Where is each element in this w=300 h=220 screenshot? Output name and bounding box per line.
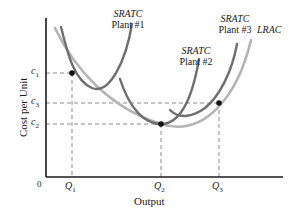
- x-tick-q1-sub: 1: [72, 186, 76, 194]
- origin-label: 0: [37, 180, 42, 189]
- axes: [46, 18, 283, 177]
- sratc-plant-1-label-line2: Plant #1: [100, 20, 156, 31]
- sratc-plant-3-label-line2: Plant #3: [207, 25, 263, 36]
- sratc-plant-2-curve: [120, 59, 199, 124]
- y-tick-c1: c1: [31, 66, 39, 79]
- x-tick-q3-sub: 3: [219, 186, 223, 194]
- marker-q3-c3: [216, 100, 222, 106]
- lrac-sratc-diagram: SRATC Plant #1 SRATC Plant #2 SRATC Plan…: [0, 0, 300, 220]
- sratc-plant-3-label: SRATC Plant #3: [207, 14, 263, 35]
- marker-q1-c1: [69, 70, 75, 76]
- lrac-label: LRAC: [257, 25, 281, 36]
- y-axis-title: Cost per Unit: [18, 78, 30, 137]
- x-tick-q2: Q2: [154, 181, 165, 194]
- marker-q2-c2: [158, 121, 164, 127]
- x-tick-q1: Q1: [65, 181, 76, 194]
- x-tick-q2-sub: 2: [161, 186, 165, 194]
- sratc-plant-1-label: SRATC Plant #1: [100, 9, 156, 30]
- sratc-plant-3-label-line1: SRATC: [207, 14, 263, 25]
- y-tick-c1-sub: 1: [35, 71, 39, 79]
- y-tick-c2: c2: [31, 117, 39, 130]
- y-tick-c2-sub: 2: [35, 122, 39, 130]
- sratc-plant-2-label-line2: Plant #2: [168, 57, 224, 68]
- x-axis-title: Output: [134, 196, 165, 208]
- x-tick-q3: Q3: [212, 181, 223, 194]
- y-tick-c3-sub: 3: [35, 101, 39, 109]
- sratc-plant-2-label-line1: SRATC: [168, 46, 224, 57]
- lrac-curve: [55, 28, 251, 127]
- sratc-plant-1-label-line1: SRATC: [100, 9, 156, 20]
- sratc-plant-2-label: SRATC Plant #2: [168, 46, 224, 67]
- y-tick-c3: c3: [31, 96, 39, 109]
